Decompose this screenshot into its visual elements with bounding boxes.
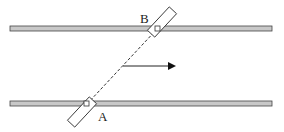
- label-b: B: [140, 11, 149, 26]
- block-b: [147, 7, 176, 37]
- top-rail: [10, 26, 272, 31]
- pin-b: [155, 26, 160, 31]
- diagram: B A: [0, 0, 284, 132]
- velocity-arrow-head: [168, 62, 176, 70]
- pin-a: [84, 101, 89, 106]
- label-a: A: [98, 109, 108, 124]
- bottom-rail: [10, 101, 272, 106]
- rails-rod-diagram: B A: [0, 0, 284, 132]
